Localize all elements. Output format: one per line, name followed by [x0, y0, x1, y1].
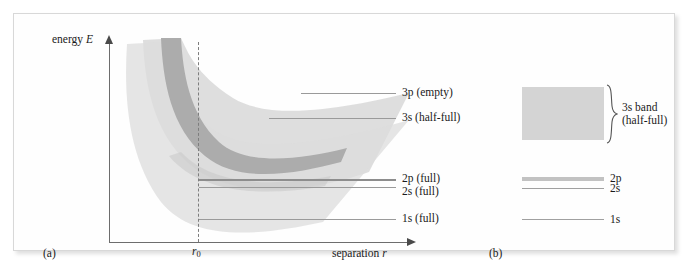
equilibrium-separation-subscript: 0 — [196, 249, 200, 259]
separation-axis-label-text: separation — [332, 247, 379, 259]
energy-axis-label: energy E — [52, 33, 93, 46]
energy-axis — [109, 42, 110, 243]
b-3s-band-label-line1: 3s band — [622, 101, 657, 113]
b-3s-band-brace — [606, 84, 618, 144]
cropped-top-text — [36, 0, 656, 6]
b-level-line-1s — [522, 219, 604, 220]
level-line-2s — [199, 187, 396, 188]
b-3s-band-block — [522, 87, 604, 140]
level-line-2p — [199, 179, 396, 181]
level-label-1s: 1s (full) — [402, 212, 439, 225]
equilibrium-separation-dashed-line — [198, 42, 199, 242]
separation-axis-arrowhead — [407, 238, 416, 246]
b-3s-band-label-line2: (half-full) — [622, 114, 667, 126]
level-label-3s: 3s (half-full) — [402, 111, 460, 124]
panel-a-caption: (a) — [43, 247, 56, 260]
energy-axis-arrowhead — [105, 35, 113, 44]
level-label-2p: 2p (full) — [402, 172, 440, 185]
panel-b-caption: (b) — [489, 247, 502, 260]
b-level-label-1s: 1s — [610, 213, 620, 226]
level-line-3s — [269, 118, 396, 119]
equilibrium-separation-label: r0 — [192, 245, 201, 260]
energy-axis-label-symbol: E — [86, 33, 93, 45]
figure-panel: energy E separation r r0 3p (empty) 3s (… — [13, 13, 675, 251]
b-level-line-2p — [522, 177, 604, 181]
b-level-line-2s — [522, 188, 604, 189]
level-label-3p: 3p (empty) — [402, 86, 453, 99]
separation-axis-label-symbol: r — [382, 247, 386, 259]
b-level-label-2s: 2s — [610, 182, 620, 195]
separation-axis — [109, 242, 409, 243]
energy-axis-label-text: energy — [52, 33, 83, 45]
level-line-1s — [199, 219, 396, 220]
energy-band-splitting-artwork — [109, 36, 409, 246]
b-3s-band-label: 3s band (half-full) — [622, 101, 667, 127]
separation-axis-label: separation r — [332, 247, 387, 260]
level-line-3p — [301, 93, 396, 94]
level-label-2s: 2s (full) — [402, 185, 439, 198]
